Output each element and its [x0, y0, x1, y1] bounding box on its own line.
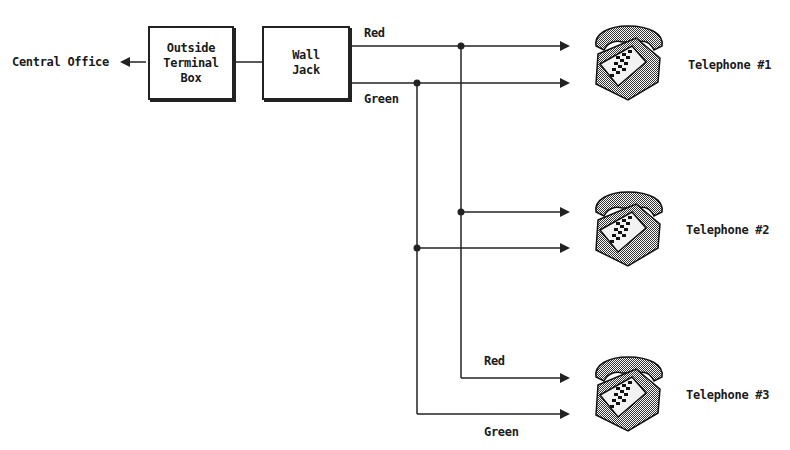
outside-box-line2: Terminal: [163, 56, 218, 71]
central-office-label: Central Office: [12, 55, 109, 69]
telephone-icon-3: [596, 357, 662, 431]
telephone-icon-1: [596, 26, 662, 100]
outside-box-line3: Box: [163, 71, 218, 86]
telephone-label-2: Telephone #2: [686, 223, 769, 237]
telephone-label-1: Telephone #1: [688, 58, 771, 72]
outside-box-line1: Outside: [163, 41, 218, 56]
wall-jack-line2: Jack: [292, 63, 320, 78]
wall-jack-box: Wall Jack: [262, 26, 350, 100]
telephone-icon-2: [596, 192, 662, 266]
wire-label-green-top: Green: [364, 92, 399, 106]
wiring-diagram: [0, 0, 790, 450]
wire-label-red-top: Red: [364, 26, 385, 40]
wall-jack-line1: Wall: [292, 48, 320, 63]
wire-label-green-bottom: Green: [484, 425, 519, 439]
outside-terminal-box: Outside Terminal Box: [148, 26, 234, 100]
wire-label-red-bottom: Red: [484, 354, 505, 368]
telephone-label-3: Telephone #3: [686, 388, 769, 402]
